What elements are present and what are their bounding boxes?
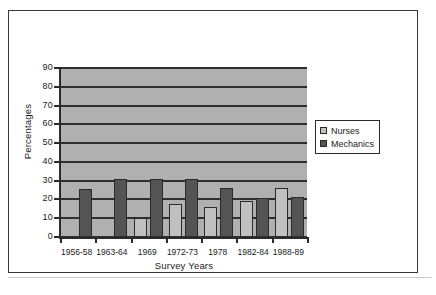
y-tick-mark: [54, 217, 60, 219]
x-tick-label: 1988-89: [267, 247, 310, 258]
y-tick-label: 0: [13, 232, 53, 241]
y-tick-mark: [54, 67, 60, 69]
y-axis-line: [59, 67, 61, 239]
gridline: [60, 198, 307, 200]
bar-mechanics-1982-84: [256, 198, 269, 237]
x-tick-mark: [201, 237, 203, 243]
y-tick-mark: [54, 105, 60, 107]
y-tick-label: 70: [13, 101, 53, 110]
gridline: [60, 67, 307, 69]
y-tick-mark: [54, 142, 60, 144]
bar-mechanics-1972-73: [185, 179, 198, 237]
bar-mechanics-1956-58: [79, 189, 92, 237]
y-tick-label: 80: [13, 82, 53, 91]
y-tick-label: 10: [13, 213, 53, 222]
chart-legend: Nurses Mechanics: [315, 120, 380, 154]
y-tick-mark: [54, 123, 60, 125]
bar-chart: 0102030405060708090 1956-581963-64196919…: [9, 11, 419, 274]
bar-mechanics-1963-64: [114, 179, 127, 237]
y-tick-mark: [54, 86, 60, 88]
legend-item-nurses: Nurses: [320, 124, 374, 137]
y-axis-title: Percentages: [22, 82, 33, 182]
x-tick-mark: [95, 237, 97, 243]
legend-label-mechanics: Mechanics: [331, 139, 374, 149]
legend-item-mechanics: Mechanics: [320, 137, 374, 150]
bar-mechanics-1978: [220, 188, 233, 237]
x-tick-mark: [166, 237, 168, 243]
document-page-frame: 0102030405060708090 1956-581963-64196919…: [8, 10, 418, 273]
bar-nurses-1969: [134, 218, 147, 237]
plot-area: [60, 68, 307, 237]
bar-nurses-1988-89: [275, 188, 288, 237]
y-tick-label: 90: [13, 63, 53, 72]
legend-swatch-mechanics-icon: [320, 140, 327, 147]
bar-nurses-1982-84: [240, 201, 253, 237]
scan-artifact-rule: [8, 277, 432, 278]
gridline: [60, 161, 307, 163]
y-tick-label: 20: [13, 194, 53, 203]
legend-swatch-nurses-icon: [320, 127, 327, 134]
x-axis-tick-labels: 1956-581963-6419691972-7319781982-841988…: [59, 247, 309, 261]
y-tick-label: 40: [13, 157, 53, 166]
bar-mechanics-1988-89: [291, 197, 304, 237]
x-tick-mark: [60, 237, 62, 243]
bar-mechanics-1969: [150, 179, 163, 237]
x-tick-mark: [272, 237, 274, 243]
legend-label-nurses: Nurses: [331, 126, 360, 136]
x-axis-title: Survey Years: [59, 260, 309, 271]
y-tick-label: 60: [13, 119, 53, 128]
gridline: [60, 123, 307, 125]
y-tick-mark: [54, 180, 60, 182]
x-tick-mark: [236, 237, 238, 243]
y-tick-mark: [54, 198, 60, 200]
bar-nurses-1972-73: [169, 204, 182, 237]
y-tick-label: 30: [13, 176, 53, 185]
gridline: [60, 217, 307, 219]
gridline: [60, 180, 307, 182]
x-tick-mark: [131, 237, 133, 243]
y-tick-mark: [54, 161, 60, 163]
gridline: [60, 86, 307, 88]
x-tick-mark: [307, 237, 309, 243]
gridline: [60, 105, 307, 107]
gridline: [60, 142, 307, 144]
bar-nurses-1978: [204, 207, 217, 237]
y-tick-label: 50: [13, 138, 53, 147]
